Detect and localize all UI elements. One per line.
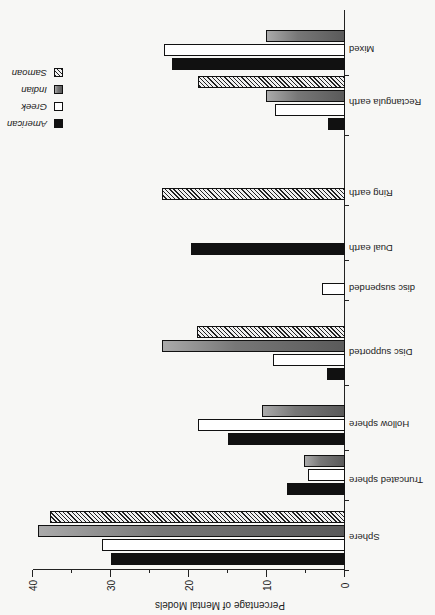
legend-swatch bbox=[54, 102, 63, 111]
bar-greek bbox=[275, 104, 345, 116]
y-tick bbox=[345, 300, 349, 301]
bar-american bbox=[111, 553, 345, 565]
category-label: Ring earth bbox=[349, 188, 429, 199]
x-tick-label: 10 bbox=[262, 576, 273, 596]
bar-greek bbox=[273, 354, 345, 366]
y-tick bbox=[345, 135, 349, 136]
bar-greek bbox=[308, 469, 345, 481]
legend-swatch bbox=[54, 119, 63, 128]
x-axis-title: Percentage of Mental Models bbox=[155, 600, 285, 611]
bar-greek bbox=[164, 44, 345, 56]
category-label: disc suspended bbox=[349, 283, 429, 294]
y-tick bbox=[345, 570, 349, 571]
bar-american bbox=[328, 118, 345, 130]
bar-american bbox=[327, 368, 345, 380]
x-minor-tick bbox=[71, 570, 72, 573]
bar-indian bbox=[262, 405, 345, 417]
bar-american bbox=[172, 58, 345, 70]
chart-frame: Percentage of Mental Models SphereTrunca… bbox=[0, 0, 435, 615]
bar-greek bbox=[198, 419, 345, 431]
legend-item: American bbox=[3, 116, 63, 130]
y-tick bbox=[345, 75, 349, 76]
x-tick-label: 30 bbox=[106, 576, 117, 596]
y-tick bbox=[345, 205, 349, 206]
bar-indian bbox=[266, 90, 345, 102]
legend-swatch bbox=[54, 68, 63, 77]
bar-indian bbox=[38, 525, 345, 537]
x-tick-label: 40 bbox=[28, 576, 39, 596]
bar-american bbox=[191, 243, 345, 255]
legend-label: Indian bbox=[21, 85, 47, 96]
y-tick bbox=[345, 500, 349, 501]
legend-label: American bbox=[7, 119, 47, 130]
bar-samoan bbox=[197, 326, 345, 338]
y-tick bbox=[345, 260, 349, 261]
legend-swatch bbox=[54, 85, 63, 94]
x-tick-label: 20 bbox=[184, 576, 195, 596]
legend-label: Samoan bbox=[12, 68, 47, 79]
bar-samoan bbox=[162, 188, 345, 200]
legend-item: Samoan bbox=[3, 65, 63, 79]
legend-item: Indian bbox=[3, 82, 63, 96]
legend-label: Greek bbox=[21, 102, 47, 113]
x-minor-tick bbox=[227, 570, 228, 573]
bar-greek bbox=[102, 539, 345, 551]
x-tick-label: 0 bbox=[340, 576, 351, 596]
x-axis-line bbox=[33, 569, 345, 570]
category-label: Hollow sphere bbox=[349, 419, 429, 430]
bar-indian bbox=[304, 455, 345, 467]
category-label: Mixed bbox=[349, 44, 429, 55]
category-label: Dual earth bbox=[349, 243, 429, 254]
category-label: Rectangula earth bbox=[349, 97, 429, 108]
category-label: Truncated sphere bbox=[349, 475, 429, 486]
x-minor-tick bbox=[149, 570, 150, 573]
bar-american bbox=[287, 483, 345, 495]
bar-indian bbox=[266, 30, 345, 42]
bar-greek bbox=[322, 283, 345, 295]
bar-indian bbox=[162, 340, 345, 352]
y-tick bbox=[345, 385, 349, 386]
bar-american bbox=[228, 433, 345, 445]
legend: AmericanGreekIndianSamoan bbox=[0, 50, 63, 130]
bar-samoan bbox=[50, 511, 345, 523]
x-minor-tick bbox=[305, 570, 306, 573]
bar-samoan bbox=[198, 76, 345, 88]
category-label: Sphere bbox=[349, 532, 429, 543]
category-label: Disc supported bbox=[349, 347, 429, 358]
y-tick bbox=[345, 450, 349, 451]
legend-item: Greek bbox=[3, 99, 63, 113]
